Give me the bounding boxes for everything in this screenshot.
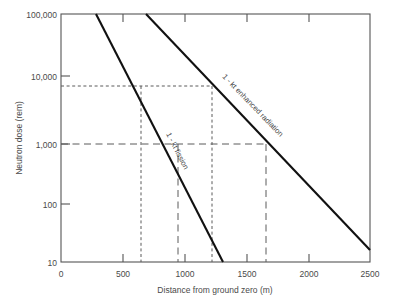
y-axis-title: Neutron dose (rem): [14, 101, 24, 175]
x-tick-label-0: 0: [59, 269, 64, 279]
neutron-dose-chart: 100,000 10,000 1,000 100 10 0 500 1000 1…: [0, 0, 398, 307]
x-tick-label-500: 500: [116, 269, 130, 279]
y-tick-label-100000: 100,000: [26, 10, 57, 20]
y-tick-label-100: 100: [43, 200, 57, 210]
y-tick-label-10000: 10,000: [31, 72, 57, 82]
x-tick-label-1000: 1000: [176, 269, 195, 279]
x-axis-title: Distance from ground zero (m): [157, 285, 272, 295]
y-tick-label-10: 10: [48, 258, 58, 268]
x-tick-label-2000: 2000: [300, 269, 319, 279]
chart-background: [0, 0, 398, 307]
y-tick-label-1000: 1,000: [36, 140, 58, 150]
x-tick-label-1500: 1500: [238, 269, 257, 279]
x-tick-label-2500: 2500: [361, 269, 380, 279]
